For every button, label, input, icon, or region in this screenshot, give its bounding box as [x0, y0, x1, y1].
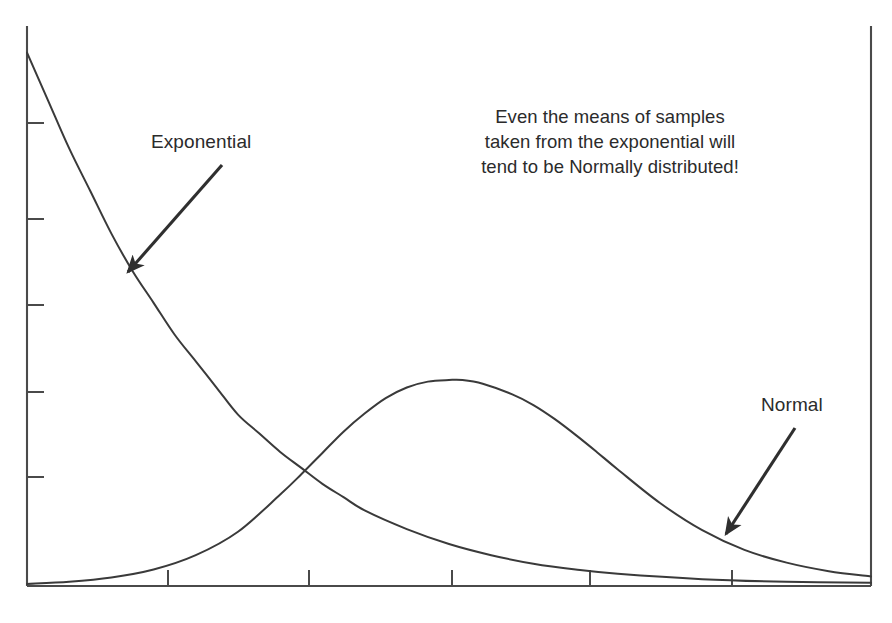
callout-arrows [128, 165, 795, 534]
exponential-arrow [128, 165, 222, 272]
x-axis-ticks [168, 570, 732, 586]
normal-arrow [726, 428, 795, 534]
chart-canvas [0, 0, 892, 623]
y-axis-ticks [27, 123, 44, 477]
distribution-chart-figure: Exponential Normal Even the means of sam… [0, 0, 892, 623]
normal-curve [27, 380, 871, 584]
axis-spines [27, 26, 871, 586]
